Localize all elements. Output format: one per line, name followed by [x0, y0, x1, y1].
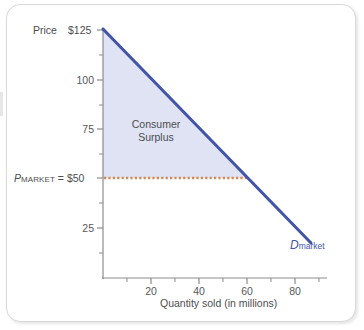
x-tick-label-40: 40: [182, 286, 216, 297]
consumer-surplus-label-line1: Consumer: [110, 118, 202, 131]
x-axis-title: Quantity sold (in millions): [160, 297, 277, 309]
demand-curve-variable: D: [290, 238, 299, 252]
x-tick-label-60: 60: [230, 286, 264, 297]
demand-curve-label: Dmarket: [290, 238, 325, 252]
y-tick-label-25: 25: [60, 223, 94, 234]
x-tick-label-80: 80: [278, 286, 312, 297]
y-axis-top-value: $125: [68, 25, 91, 36]
market-price-value: = $50: [55, 172, 85, 184]
y-axis-major-ticks: [97, 30, 103, 228]
market-price-variable: P: [14, 172, 21, 184]
y-tick-label-100: 100: [60, 75, 94, 86]
consumer-surplus-chart: [0, 0, 364, 330]
market-price-label: PMARKET = $50: [14, 172, 84, 184]
consumer-surplus-label: Consumer Surplus: [110, 118, 202, 144]
demand-curve-subscript: market: [299, 241, 325, 251]
consumer-surplus-label-line2: Surplus: [110, 131, 202, 144]
y-tick-label-75: 75: [60, 124, 94, 135]
market-price-subscript: MARKET: [21, 175, 55, 184]
x-tick-label-20: 20: [134, 286, 168, 297]
y-axis-title: Price: [33, 25, 57, 36]
